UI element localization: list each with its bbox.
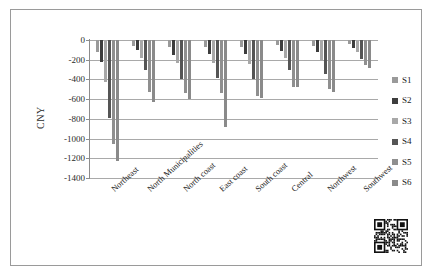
bar-group (270, 40, 306, 178)
x-axis-label-cell: Central (270, 180, 306, 232)
bar (168, 40, 171, 47)
bar (320, 40, 323, 61)
bar (136, 40, 139, 50)
y-axis-tick-label: 0 (81, 35, 86, 45)
qr-code (374, 219, 408, 253)
y-axis-tick-label: -1400 (64, 173, 85, 183)
plot-area: 0-200-400-600-800-1000-1200-1400 (90, 40, 378, 178)
bar (108, 40, 111, 118)
x-axis-label-cell: South coast (234, 180, 270, 232)
bar (348, 40, 351, 44)
bar (296, 40, 299, 87)
bar (180, 40, 183, 79)
x-axis-label-cell: Northeast (90, 180, 126, 232)
y-axis-tick-label: -400 (69, 74, 86, 84)
legend-item-s1[interactable]: S1 (392, 70, 432, 91)
bar (176, 40, 179, 63)
bar (312, 40, 315, 46)
bar (248, 40, 251, 64)
chart-screenshot: CNY 0-200-400-600-800-1000-1200-1400 Nor… (0, 0, 432, 278)
bar (364, 40, 367, 65)
bar-set (96, 40, 120, 178)
legend-item-s2[interactable]: S2 (392, 91, 432, 112)
bar (288, 40, 291, 70)
bar-group (234, 40, 270, 178)
bar (132, 40, 135, 46)
bar (280, 40, 283, 51)
legend-label: S6 (402, 178, 412, 187)
legend-label: S3 (402, 117, 412, 126)
bar (224, 40, 227, 127)
y-axis-tick-label: -800 (69, 114, 86, 124)
bar (104, 40, 107, 82)
bar (324, 40, 327, 74)
bar (204, 40, 207, 47)
bar (292, 40, 295, 87)
bar-group (306, 40, 342, 178)
bar (216, 40, 219, 78)
bar (328, 40, 331, 89)
legend-swatch-icon (392, 180, 398, 186)
bar (240, 40, 243, 47)
bar-set (348, 40, 372, 178)
bar (332, 40, 335, 92)
bar (244, 40, 247, 54)
bar-group (90, 40, 126, 178)
legend-swatch-icon (392, 118, 398, 124)
legend-swatch-icon (392, 98, 398, 104)
bar (368, 40, 371, 68)
bar (284, 40, 287, 58)
bar (220, 40, 223, 93)
bar-group (342, 40, 378, 178)
legend-label: S4 (402, 137, 412, 146)
legend-label: S5 (402, 158, 412, 167)
y-axis-tick (86, 178, 90, 179)
bar-group (126, 40, 162, 178)
y-axis-tick-label: -1200 (64, 153, 85, 163)
chart-frame: CNY 0-200-400-600-800-1000-1200-1400 Nor… (10, 9, 422, 266)
legend-swatch-icon (392, 77, 398, 83)
bar (256, 40, 259, 96)
bar (116, 40, 119, 161)
x-axis-label-cell: East coast (198, 180, 234, 232)
bar (148, 40, 151, 92)
legend-item-s3[interactable]: S3 (392, 111, 432, 132)
bar (212, 40, 215, 63)
bar-set (276, 40, 300, 178)
bar (172, 40, 175, 55)
bar (140, 40, 143, 58)
bar (112, 40, 115, 144)
bar (356, 40, 359, 52)
y-axis-tick-label: -1000 (64, 134, 85, 144)
legend-item-s6[interactable]: S6 (392, 173, 432, 194)
bar (100, 40, 103, 62)
bar-set (240, 40, 264, 178)
x-axis-label-cell: Northwest (306, 180, 342, 232)
bar (252, 40, 255, 79)
chart-legend: S1S2S3S4S5S6 (392, 70, 432, 193)
y-axis-tick-label: -200 (69, 55, 86, 65)
bar (144, 40, 147, 70)
legend-swatch-icon (392, 139, 398, 145)
x-axis-label-cell: North Municipalities (126, 180, 162, 232)
x-axis-labels: NortheastNorth MunicipalitiesNorth coast… (90, 180, 378, 232)
legend-swatch-icon (392, 159, 398, 165)
y-axis-tick-label: -600 (69, 94, 86, 104)
bar (360, 40, 363, 59)
bar-groups (90, 40, 378, 178)
y-axis-title: CNY (33, 88, 47, 148)
bar (188, 40, 191, 99)
bar (260, 40, 263, 98)
bar-set (132, 40, 156, 178)
bar-set (312, 40, 336, 178)
bar (96, 40, 99, 52)
x-axis-label-cell: North coast (162, 180, 198, 232)
bar (276, 40, 279, 45)
legend-item-s5[interactable]: S5 (392, 152, 432, 173)
bar-group (198, 40, 234, 178)
bar (152, 40, 155, 102)
bar (208, 40, 211, 54)
x-axis-label-cell: Southwest (342, 180, 378, 232)
legend-item-s4[interactable]: S4 (392, 132, 432, 153)
legend-label: S1 (402, 76, 412, 85)
